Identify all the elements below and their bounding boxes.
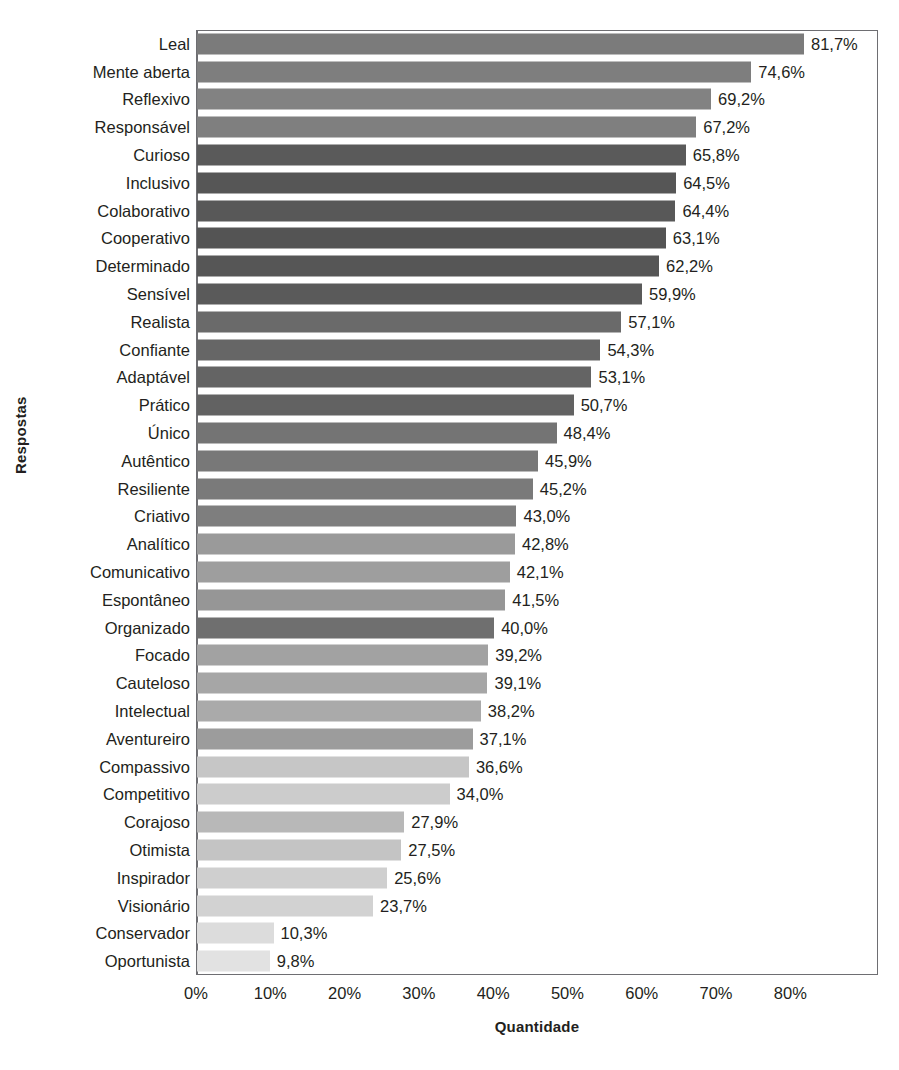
bar-and-value: 45,9% <box>197 450 592 471</box>
bar-row: Inspirador25,6% <box>0 864 899 892</box>
category-label: Inspirador <box>117 868 190 888</box>
bar <box>197 784 450 805</box>
bar <box>197 923 274 944</box>
bar-row: Reflexivo69,2% <box>0 86 899 114</box>
bar-row: Cooperativo63,1% <box>0 225 899 253</box>
bar-value-label: 63,1% <box>673 228 720 249</box>
bar-and-value: 48,4% <box>197 423 610 444</box>
bar-and-value: 37,1% <box>197 728 526 749</box>
bar <box>197 673 487 694</box>
category-label: Comunicativo <box>90 562 190 582</box>
bar-and-value: 10,3% <box>197 923 327 944</box>
bar <box>197 367 591 388</box>
bar-row: Adaptável53,1% <box>0 364 899 392</box>
category-label: Responsável <box>95 117 190 137</box>
category-label: Compassivo <box>99 757 190 777</box>
bar-row: Aventureiro37,1% <box>0 725 899 753</box>
x-tick-label: 10% <box>235 982 305 1004</box>
bar-value-label: 39,1% <box>494 673 541 694</box>
category-label: Visionário <box>118 896 190 916</box>
bar-and-value: 23,7% <box>197 895 427 916</box>
bar-row: Corajoso27,9% <box>0 808 899 836</box>
bar <box>197 89 711 110</box>
bar-and-value: 40,0% <box>197 617 548 638</box>
bar-value-label: 62,2% <box>666 256 713 277</box>
bar-row: Único48,4% <box>0 419 899 447</box>
x-tick-label: 60% <box>607 982 677 1004</box>
category-label: Confiante <box>119 340 190 360</box>
bar-value-label: 54,3% <box>607 339 654 360</box>
bar-value-label: 36,6% <box>476 756 523 777</box>
bar-row: Determinado62,2% <box>0 252 899 280</box>
bar-and-value: 39,2% <box>197 645 542 666</box>
bar-and-value: 9,8% <box>197 951 314 972</box>
category-label: Realista <box>130 312 190 332</box>
bar-and-value: 59,9% <box>197 284 696 305</box>
bar <box>197 506 516 527</box>
category-label: Focado <box>135 645 190 665</box>
bar-value-label: 25,6% <box>394 867 441 888</box>
bar-value-label: 10,3% <box>281 923 328 944</box>
category-label: Aventureiro <box>106 729 190 749</box>
bar <box>197 534 515 555</box>
x-tick-label: 50% <box>532 982 602 1004</box>
x-tick-label: 70% <box>681 982 751 1004</box>
bar-and-value: 36,6% <box>197 756 523 777</box>
bar <box>197 478 533 499</box>
category-label: Adaptável <box>117 367 190 387</box>
category-label: Intelectual <box>115 701 190 721</box>
category-label: Colaborativo <box>97 201 190 221</box>
category-label: Espontâneo <box>102 590 190 610</box>
bar-and-value: 50,7% <box>197 395 627 416</box>
bar-value-label: 9,8% <box>277 951 315 972</box>
bar-and-value: 64,5% <box>197 172 730 193</box>
x-tick-label: 80% <box>755 982 825 1004</box>
bar-value-label: 65,8% <box>693 145 740 166</box>
bar-row: Prático50,7% <box>0 391 899 419</box>
bar-value-label: 42,1% <box>517 561 564 582</box>
bar-row: Realista57,1% <box>0 308 899 336</box>
category-label: Corajoso <box>124 812 190 832</box>
x-axis-ticks: 0%10%20%30%40%50%60%70%80% <box>196 982 878 1008</box>
bar <box>197 700 481 721</box>
bar <box>197 395 574 416</box>
bar-row: Mente aberta74,6% <box>0 58 899 86</box>
bar-and-value: 74,6% <box>197 61 805 82</box>
bar-value-label: 37,1% <box>480 728 527 749</box>
bar-value-label: 74,6% <box>758 61 805 82</box>
bar <box>197 33 804 54</box>
category-label: Competitivo <box>103 784 190 804</box>
bar-value-label: 45,2% <box>540 478 587 499</box>
bar-and-value: 39,1% <box>197 673 541 694</box>
bar <box>197 256 659 277</box>
bar-and-value: 62,2% <box>197 256 713 277</box>
bar <box>197 339 600 360</box>
bar-value-label: 41,5% <box>512 589 559 610</box>
bar-row: Espontâneo41,5% <box>0 586 899 614</box>
bar-value-label: 45,9% <box>545 450 592 471</box>
bar-and-value: 27,9% <box>197 812 458 833</box>
x-axis-title: Quantidade <box>196 1018 878 1035</box>
x-tick-label: 40% <box>458 982 528 1004</box>
bar-value-label: 53,1% <box>598 367 645 388</box>
bar-row: Inclusivo64,5% <box>0 169 899 197</box>
bar-value-label: 38,2% <box>488 700 535 721</box>
bar-value-label: 67,2% <box>703 117 750 138</box>
bar <box>197 200 675 221</box>
bar-row: Focado39,2% <box>0 641 899 669</box>
bar-row: Otimista27,5% <box>0 836 899 864</box>
bar-row: Autêntico45,9% <box>0 447 899 475</box>
bar-row: Responsável67,2% <box>0 113 899 141</box>
x-tick-label: 20% <box>310 982 380 1004</box>
bar <box>197 867 387 888</box>
bar-and-value: 69,2% <box>197 89 765 110</box>
bar-value-label: 23,7% <box>380 895 427 916</box>
bar-and-value: 27,5% <box>197 839 455 860</box>
category-label: Cooperativo <box>101 228 190 248</box>
bar-and-value: 43,0% <box>197 506 570 527</box>
bar <box>197 311 621 332</box>
bar <box>197 145 686 166</box>
bar <box>197 839 401 860</box>
bar <box>197 561 510 582</box>
bar-rows: Leal81,7%Mente aberta74,6%Reflexivo69,2%… <box>0 30 899 975</box>
